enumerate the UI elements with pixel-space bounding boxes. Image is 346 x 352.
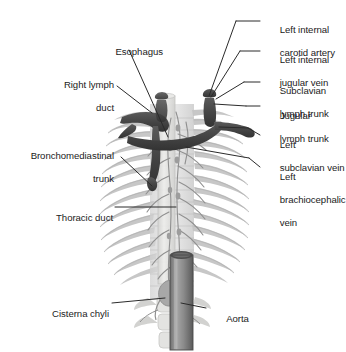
- label-right-lymph-duct-line-1: Right lymph: [64, 79, 114, 90]
- label-left-brachiocephalic-vein: Left brachiocephalic vein: [264, 160, 343, 240]
- leader-subclavian-trunk: [216, 82, 244, 99]
- label-thoracic-duct-line-1: Thoracic duct: [56, 212, 113, 223]
- label-aorta-line-1: Aorta: [226, 313, 249, 324]
- label-jugular-vein-line-1: Left internal: [280, 54, 329, 65]
- label-brachiocephalic-line-3: vein: [280, 217, 297, 228]
- label-brachiocephalic-line-2: brachiocephalic: [280, 194, 346, 205]
- label-bronchomediastinal-trunk: Bronchomediastinal trunk: [0, 139, 114, 196]
- label-aorta: Aorta: [211, 302, 261, 336]
- label-cisterna-chyli: Cisterna chyli: [0, 297, 109, 331]
- label-bronchomediastinal-line-2: trunk: [93, 173, 114, 184]
- aorta-vessel: [170, 251, 193, 350]
- label-esophagus: Esophagus: [13, 35, 163, 69]
- label-right-lymph-duct-line-2: duct: [96, 102, 114, 113]
- label-brachiocephalic-line-1: Left: [280, 171, 296, 182]
- leader-jugular-vein: [211, 51, 240, 97]
- label-esophagus-line-1: Esophagus: [115, 46, 163, 57]
- leader-brachiocephalic-a: [249, 158, 260, 167]
- label-bronchomediastinal-line-1: Bronchomediastinal: [31, 150, 114, 161]
- label-cisterna-chyli-line-1: Cisterna chyli: [52, 308, 109, 319]
- label-subclavian-trunk-line-1: Subclavian: [280, 85, 326, 96]
- label-subclavian-vein-line-1: Left: [280, 139, 296, 150]
- label-jugular-trunk-line-1: Jugular: [280, 110, 311, 121]
- label-right-lymph-duct: Right lymph duct: [0, 68, 114, 125]
- label-carotid-line-1: Left internal: [280, 24, 329, 35]
- leader-jugular-trunk: [214, 104, 246, 106]
- leader-carotid: [209, 21, 236, 96]
- label-thoracic-duct: Thoracic duct: [0, 201, 113, 235]
